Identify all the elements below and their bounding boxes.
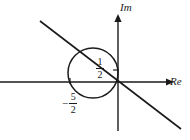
imaginary-axis-label: Im — [120, 2, 132, 13]
imaginary-axis-arrowhead — [114, 14, 121, 22]
label-one-half: 1 2 — [95, 57, 104, 80]
real-axis-label: Re — [170, 76, 182, 87]
label-negative-five-halves-sign: − — [62, 98, 68, 109]
label-negative-five-halves-stack: 5 2 — [69, 92, 77, 115]
complex-plane-figure: Im Re 1 2 − 5 2 — [0, 0, 190, 140]
label-negative-five-halves-numerator: 5 — [70, 92, 77, 102]
label-one-half-stack: 1 2 — [96, 57, 104, 80]
label-negative-five-halves: − 5 2 — [62, 92, 77, 115]
label-one-half-denominator: 2 — [97, 70, 104, 80]
label-negative-five-halves-denominator: 2 — [70, 105, 77, 115]
label-one-half-numerator: 1 — [97, 57, 104, 67]
